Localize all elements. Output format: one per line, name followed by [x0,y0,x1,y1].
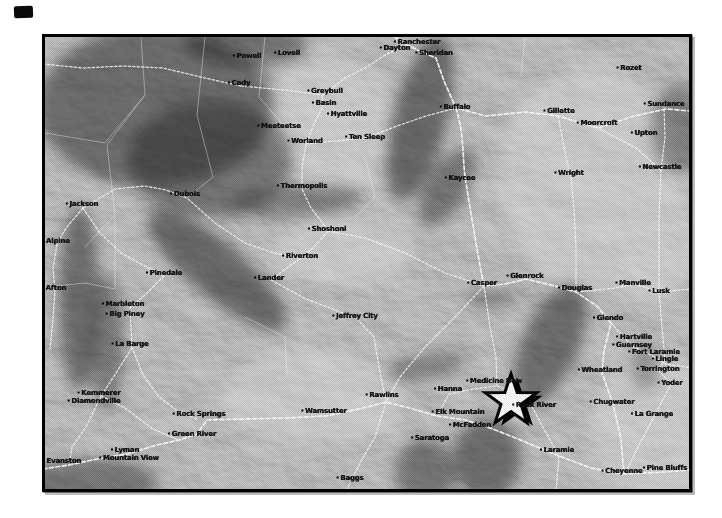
town-dot-icon [590,401,592,403]
town-label: Rozet [617,65,642,72]
town-dot-icon [68,400,70,402]
town-label: Wright [554,170,583,177]
town-label: Sheridan [415,50,452,57]
town-label: Elk Mountain [432,409,485,416]
town-label: Moorcroft [577,120,618,127]
town-dot-icon [652,358,654,360]
town-label: Afton [45,285,66,292]
town-label: Rock River [512,402,556,409]
town-dot-icon [99,457,101,459]
town-dot-icon [257,125,259,127]
town-label: Ranchester [394,39,440,46]
town-label: Ten Sleep [345,134,385,141]
town-label: Lovell [274,50,300,57]
town-dot-icon [628,351,630,353]
town-label: Wamsutter [301,408,346,415]
town-dot-icon [380,47,382,49]
town-label: Manville [615,280,650,287]
map-canvas: PowellLovellCodyGreybullBasinHyattvilleM… [45,37,689,489]
town-label: Saratoga [411,435,449,442]
town-label: Rock Springs [173,411,226,418]
town-label: Big Piney [106,311,145,318]
town-dot-icon [106,313,108,315]
town-dot-icon [112,343,114,345]
town-dot-icon [228,82,230,84]
town-dot-icon [631,132,633,134]
town-dot-icon [578,369,580,371]
town-dot-icon [327,113,329,115]
town-dot-icon [615,282,617,284]
town-dot-icon [415,52,417,54]
town-label: McFadden [449,422,491,429]
town-label: Pinedale [146,270,182,277]
town-label: Upton [631,130,657,137]
town-dot-icon [466,380,468,382]
town-label: Meeteetse [257,123,300,130]
town-label: Medicine Bow [466,378,522,385]
town-label: La Grange [631,411,673,418]
town-label: Basin [312,100,336,107]
town-label: Casper [467,280,497,287]
scan-artifact [14,6,33,19]
town-label: Dayton [380,45,410,52]
town-dot-icon [301,410,303,412]
town-dot-icon [78,392,80,394]
town-dot-icon [602,470,604,472]
town-label: Rawlins [366,392,399,399]
town-label: Riverton [282,253,318,260]
town-dot-icon [631,413,633,415]
town-dot-icon [658,382,660,384]
town-dot-icon [558,287,560,289]
town-label: Evanston [45,458,81,465]
town-label: Lyman [111,447,139,454]
town-label: Yoder [658,380,683,387]
town-label: Diamondville [68,398,121,405]
town-label: Lingle [652,356,678,363]
town-dot-icon [277,185,279,187]
town-dot-icon [337,477,339,479]
town-label: Torrington [637,366,680,373]
town-dot-icon [540,449,542,451]
relief-map: PowellLovellCodyGreybullBasinHyattvilleM… [42,34,692,492]
town-label: Cody [228,80,250,87]
town-dot-icon [411,437,413,439]
town-label: Lusk [649,288,670,295]
town-label: Pine Bluffs [643,465,687,472]
town-dot-icon [173,413,175,415]
town-dot-icon [170,193,172,195]
town-label: Kemmerer [78,390,121,397]
town-dot-icon [440,106,442,108]
town-dot-icon [512,404,514,406]
town-label: Cheyenne [602,468,643,475]
figure-page: PowellLovellCodyGreybullBasinHyattvilleM… [0,0,722,518]
town-dot-icon [554,172,556,174]
town-dot-icon [543,110,545,112]
town-label: Chugwater [590,399,635,406]
town-dot-icon [102,303,104,305]
town-label: Baggs [337,475,364,482]
town-dot-icon [644,103,646,105]
town-label: Glenrock [507,273,544,280]
town-dot-icon [288,140,290,142]
town-dot-icon [649,290,651,292]
town-label: Thermopolis [277,183,327,190]
town-label: Hyattville [327,111,367,118]
town-dot-icon [639,166,641,168]
town-dot-icon [612,344,614,346]
town-dot-icon [168,433,170,435]
town-dot-icon [434,388,436,390]
town-dot-icon [282,255,284,257]
town-labels-layer: PowellLovellCodyGreybullBasinHyattvilleM… [45,37,689,489]
town-dot-icon [146,272,148,274]
town-dot-icon [593,317,595,319]
town-label: Powell [233,53,261,60]
town-label: Lander [254,275,284,282]
town-dot-icon [111,449,113,451]
town-label: Greybull [307,88,342,95]
town-label: Worland [288,138,323,145]
town-label: Kaycee [445,175,475,182]
town-dot-icon [66,203,68,205]
town-label: Jeffrey City [332,313,377,320]
town-label: Douglas [558,285,592,292]
town-dot-icon [616,336,618,338]
